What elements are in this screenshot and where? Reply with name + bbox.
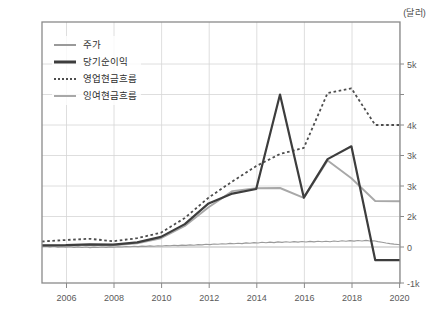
legend-item-price[interactable]: 주가 <box>54 38 137 51</box>
legend-label-price: 주가 <box>83 40 101 50</box>
x-axis-ticks <box>67 283 400 288</box>
x-tick-2012: 2012 <box>199 293 219 303</box>
legend-label-free-cash-flow: 잉여현금흐름 <box>83 91 137 101</box>
x-tick-2010: 2010 <box>152 293 172 303</box>
stock-financials-line-chart: (달러) <box>0 0 432 316</box>
y-tick-3k-alt: 3k <box>407 151 417 161</box>
y-tick-minus1k: -1k <box>407 279 420 289</box>
x-tick-2018: 2018 <box>342 293 362 303</box>
x-tick-2020: 2020 <box>390 293 410 303</box>
x-tick-2016: 2016 <box>294 293 314 303</box>
y-tick-2k: 2k <box>407 212 417 222</box>
y-tick-0: 0 <box>407 243 412 253</box>
y-axis-tick-labels: 5k 4k 3k 2k 3k 0 -1k <box>407 60 420 289</box>
legend-label-operating-cash-flow: 영업현금흐름 <box>83 74 137 84</box>
legend-label-net-income: 당기순이익 <box>83 57 128 67</box>
legend-swatch-free-cash-flow-icon <box>54 91 76 101</box>
legend-item-operating-cash-flow[interactable]: 영업현금흐름 <box>54 72 137 85</box>
legend-item-net-income[interactable]: 당기순이익 <box>54 55 137 68</box>
x-tick-2006: 2006 <box>56 293 76 303</box>
legend-item-free-cash-flow[interactable]: 잉여현금흐름 <box>54 89 137 102</box>
y-tick-4k: 4k <box>407 121 417 131</box>
legend-swatch-operating-cash-flow-icon <box>54 74 76 84</box>
x-tick-2014: 2014 <box>247 293 267 303</box>
x-tick-2008: 2008 <box>104 293 124 303</box>
legend-swatch-price-icon <box>54 40 76 50</box>
legend-swatch-net-income-icon <box>54 57 76 67</box>
y-tick-3k: 3k <box>407 182 417 192</box>
x-axis-tick-labels: 2006 2008 2010 2012 2014 2016 2018 2020 <box>56 293 409 303</box>
chart-legend: 주가 당기순이익 영업현금흐름 잉여현금흐름 <box>52 36 141 105</box>
y-tick-5k: 5k <box>407 60 417 70</box>
